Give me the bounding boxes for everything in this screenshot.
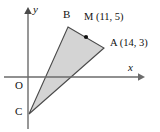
point-label-b: B — [63, 9, 70, 20]
y-axis-label: y — [33, 4, 38, 15]
point-marker-m-icon — [84, 35, 88, 39]
point-label-c: C — [15, 106, 22, 117]
point-label-m: M (11, 5) — [84, 12, 124, 23]
origin-label: O — [15, 80, 23, 91]
coordinate-geometry-figure: B M (11, 5) A (14, 3) C O x y — [0, 0, 160, 132]
y-axis-arrow-icon — [24, 7, 32, 14]
triangle-abc — [29, 27, 104, 114]
x-axis-arrow-icon — [138, 73, 145, 81]
x-axis-label: x — [128, 62, 133, 73]
point-label-a: A (14, 3) — [110, 38, 148, 49]
figure-canvas — [0, 0, 160, 132]
